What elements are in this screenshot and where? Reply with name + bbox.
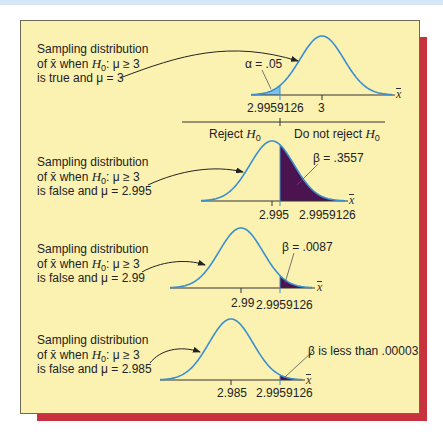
panel-3-line2: of x̄ when H0: μ ≥ 3	[37, 257, 148, 272]
panel-2-line2: of x̄ when H0: μ ≥ 3	[37, 170, 152, 185]
beta-label-3: β is less than .00003	[308, 344, 418, 358]
beta-pointer-2	[285, 253, 294, 283]
x-axis-symbol-3: x	[317, 280, 322, 295]
x-axis-symbol-2: x	[349, 193, 354, 208]
critical-value-label-1: 2.9959126	[247, 101, 304, 115]
panel-1-line1: Sampling distribution	[37, 42, 148, 57]
panel-2-description: Sampling distribution of x̄ when H0: μ ≥…	[37, 155, 152, 199]
panel-4-line3: is false and μ = 2.985	[37, 362, 152, 377]
critical-value-label-2: 2.9959126	[299, 208, 356, 222]
beta-label-2: β = .0087	[282, 240, 333, 254]
critical-value-label-3: 2.9959126	[256, 298, 313, 312]
mean-label-3: 2.99	[231, 296, 254, 310]
mean-label-2: 2.995	[259, 208, 289, 222]
critical-value-label-4: 2.9959126	[256, 386, 313, 400]
panel-3-line3: is false and μ = 2.99	[37, 271, 148, 286]
panel-4-line1: Sampling distribution	[37, 333, 152, 348]
panel-2-line3: is false and μ = 2.995	[37, 184, 152, 199]
leader-arrow-3	[142, 261, 205, 272]
leader-arrow-2	[148, 169, 243, 185]
panel-4-description: Sampling distribution of x̄ when H0: μ ≥…	[37, 333, 152, 377]
panel-2-line1: Sampling distribution	[37, 155, 152, 170]
reject-region-label: Reject H0	[209, 126, 261, 142]
normal-curve	[160, 319, 302, 380]
normal-curve	[170, 228, 312, 288]
mean-label-1: 3	[318, 101, 325, 115]
normal-curve	[201, 141, 345, 201]
x-axis-symbol-1: x	[396, 87, 401, 102]
mean-label-4: 2.985	[217, 386, 247, 400]
panel-1-line2: of x̄ when H0: μ ≥ 3	[37, 57, 148, 72]
panel-3-description: Sampling distribution of x̄ when H0: μ ≥…	[37, 242, 148, 286]
panel-1-line3: is true and μ = 3	[37, 71, 148, 86]
leader-arrow-4	[150, 349, 200, 363]
panel-4-line2: of x̄ when H0: μ ≥ 3	[37, 348, 152, 363]
beta-label-1: β = .3557	[313, 151, 364, 165]
panel-1-description: Sampling distribution of x̄ when H0: μ ≥…	[37, 42, 148, 86]
alpha-label: α = .05	[245, 57, 282, 71]
alpha-pointer	[262, 70, 271, 89]
do-not-reject-region-label: Do not reject H0	[294, 126, 380, 142]
x-axis-symbol-4: x	[306, 373, 311, 388]
panel-3-line1: Sampling distribution	[37, 242, 148, 257]
